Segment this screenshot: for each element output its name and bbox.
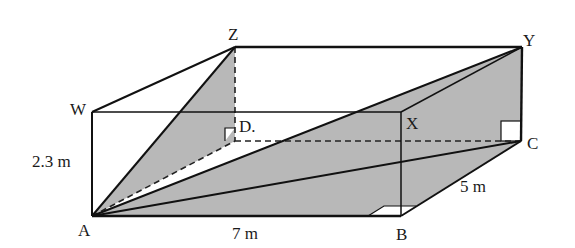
vertex-label-A: A: [78, 222, 90, 239]
vertex-label-W: W: [70, 101, 86, 118]
vertex-label-B: B: [396, 226, 407, 243]
width-dimension-label: 5 m: [460, 178, 486, 195]
length-dimension-label: 7 m: [232, 225, 258, 242]
prism-diagram: [0, 0, 575, 248]
vertex-label-C: C: [527, 135, 538, 152]
vertex-label-Z: Z: [228, 26, 238, 43]
height-dimension-label: 2.3 m: [32, 153, 71, 170]
right-angle-marker-C: [501, 121, 521, 141]
vertex-label-D: D.: [239, 118, 256, 135]
vertex-label-Y: Y: [523, 32, 535, 49]
vertex-label-X: X: [406, 115, 418, 132]
